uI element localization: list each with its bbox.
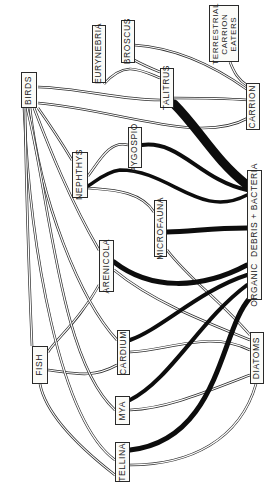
node-nephthys: NEPHTHYS <box>72 152 88 198</box>
node-label: DIATOMS <box>252 337 262 379</box>
food-web-edges <box>0 0 272 494</box>
node-tellina: TELLINA <box>115 442 130 482</box>
node-birds: BIRDS <box>21 72 37 108</box>
node-diatoms: DIATOMS <box>250 332 264 384</box>
node-cardium: CARDIUM <box>117 330 130 375</box>
node-mya: MYA <box>115 396 130 425</box>
node-carrion: CARRION <box>246 83 260 130</box>
node-organic-debris-bacteria: ORGANIC DEBRIS + BACTERIA <box>247 170 262 300</box>
node-label: ORGANIC DEBRIS + BACTERIA <box>250 163 260 307</box>
node-label: MICROFAUNA <box>156 197 166 260</box>
node-label: TALITRUS <box>162 65 172 110</box>
node-label: CARRION <box>248 85 258 128</box>
node-label: NEPHTHYS <box>75 149 85 200</box>
node-arenicola: ARENICOLA <box>99 240 114 292</box>
node-eurynebria: EURYNEBRIA <box>92 25 106 83</box>
node-label: BIRDS <box>24 76 34 105</box>
node-terrestrial-carrion-eaters: TERRESTRIAL CARRION EATERS <box>209 5 239 62</box>
food-web-diagram: BIRDS EURYNEBRIA BROSCUS TERRESTRIAL CAR… <box>0 0 272 494</box>
node-broscus: BROSCUS <box>121 20 135 63</box>
node-label: PYGOSPIO <box>130 123 140 173</box>
node-fish: FISH <box>32 346 48 384</box>
node-label: CARDIUM <box>119 331 129 375</box>
node-label: TERRESTRIAL CARRION EATERS <box>211 3 238 65</box>
node-pygospio: PYGOSPIO <box>128 127 142 168</box>
node-microfauna: MICROFAUNA <box>154 200 167 257</box>
node-label: MYA <box>118 401 128 421</box>
node-label: EURYNEBRIA <box>94 23 104 84</box>
thin-flows <box>24 45 256 475</box>
node-label: FISH <box>35 354 45 376</box>
node-label: TELLINA <box>118 443 128 482</box>
node-label: BROSCUS <box>123 18 133 64</box>
node-label: ARENICOLA <box>102 239 112 294</box>
node-talitrus: TALITRUS <box>160 68 174 108</box>
